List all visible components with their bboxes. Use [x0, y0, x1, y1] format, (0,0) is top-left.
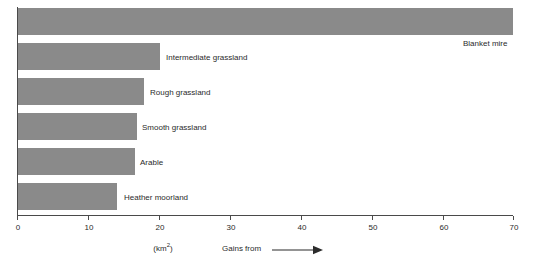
- arrow-right-icon: [272, 242, 324, 260]
- x-tick-70: [513, 216, 514, 220]
- bar-label-arable: Arable: [140, 159, 163, 167]
- x-tick-10: [88, 216, 89, 220]
- plot-area: Blanket mire Intermediate grassland Roug…: [0, 0, 540, 262]
- y-axis-line: [17, 7, 18, 215]
- x-tick-30: [230, 216, 231, 220]
- bar-label-rough-grassland: Rough grassland: [150, 89, 210, 97]
- x-tick-0: [17, 216, 18, 220]
- x-tick-label-20: 20: [156, 224, 165, 232]
- unit-prefix: (km: [153, 244, 166, 253]
- unit-suffix: ): [170, 244, 173, 253]
- x-tick-60: [443, 216, 444, 220]
- x-axis-unit-label: (km2): [153, 245, 172, 253]
- x-tick-20: [159, 216, 160, 220]
- x-tick-label-50: 50: [369, 224, 378, 232]
- bar-arable: [17, 148, 135, 175]
- bar-blanket-mire: [17, 8, 513, 35]
- bar-smooth-grassland: [17, 113, 137, 140]
- gains-from-label: Gains from: [222, 245, 261, 253]
- arrow-right-svg: [272, 244, 324, 256]
- x-tick-label-60: 60: [440, 224, 449, 232]
- bar-label-smooth-grassland: Smooth grassland: [142, 124, 206, 132]
- bar-label-blanket-mire: Blanket mire: [463, 40, 507, 48]
- bar-label-intermediate-grassland: Intermediate grassland: [166, 54, 247, 62]
- x-tick-label-0: 0: [16, 224, 20, 232]
- x-tick-label-30: 30: [227, 224, 236, 232]
- bar-rough-grassland: [17, 78, 144, 105]
- x-tick-50: [372, 216, 373, 220]
- bar-heather-moorland: [17, 183, 117, 210]
- bar-intermediate-grassland: [17, 43, 160, 70]
- x-tick-label-40: 40: [298, 224, 307, 232]
- x-tick-label-70: 70: [510, 224, 519, 232]
- bar-chart: Blanket mire Intermediate grassland Roug…: [0, 0, 540, 262]
- x-axis-line: [17, 215, 513, 216]
- bar-label-heather-moorland: Heather moorland: [124, 194, 188, 202]
- x-tick-label-10: 10: [85, 224, 94, 232]
- x-tick-40: [301, 216, 302, 220]
